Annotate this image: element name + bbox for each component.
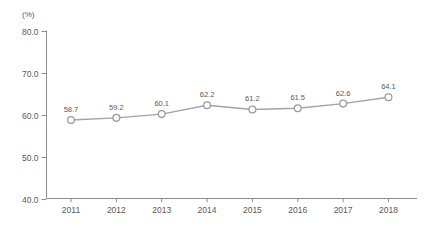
data-point-label: 61.2	[245, 94, 260, 103]
data-point-label: 58.7	[64, 105, 79, 114]
x-tick-label: 2013	[152, 205, 171, 215]
line-chart: 40.050.060.070.080.0(%)20112012201320142…	[0, 0, 426, 236]
data-point-marker	[68, 117, 75, 124]
data-point-label: 59.2	[109, 103, 124, 112]
x-tick-label: 2011	[62, 205, 81, 215]
data-point-marker	[385, 94, 392, 101]
x-tick-label: 2018	[379, 205, 398, 215]
y-tick-label: 50.0	[22, 153, 39, 163]
chart-canvas: 40.050.060.070.080.0(%)20112012201320142…	[0, 0, 426, 236]
data-point-marker	[249, 106, 256, 113]
data-point-label: 60.1	[154, 99, 169, 108]
y-tick-label: 60.0	[22, 111, 39, 121]
y-tick-label: 80.0	[22, 27, 39, 37]
x-tick-label: 2012	[107, 205, 126, 215]
data-point-label: 62.2	[200, 90, 215, 99]
data-point-marker	[294, 105, 301, 112]
x-tick-label: 2015	[243, 205, 262, 215]
data-point-marker	[204, 102, 211, 109]
unit-label: (%)	[22, 10, 35, 19]
x-tick-label: 2014	[198, 205, 217, 215]
y-tick-label: 40.0	[22, 195, 39, 205]
data-point-marker	[113, 114, 120, 121]
y-tick-label: 70.0	[22, 69, 39, 79]
data-point-marker	[158, 111, 165, 118]
x-tick-label: 2016	[288, 205, 307, 215]
data-point-marker	[340, 100, 347, 107]
data-point-label: 64.1	[381, 82, 396, 91]
x-tick-label: 2017	[334, 205, 353, 215]
data-point-label: 61.5	[290, 93, 305, 102]
data-point-label: 62.6	[336, 89, 351, 98]
